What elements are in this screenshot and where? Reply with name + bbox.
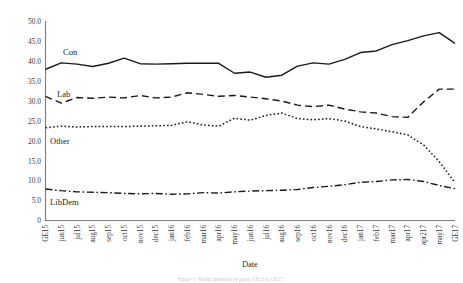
y-tick-label: 25.0 <box>28 117 41 126</box>
x-tick-label: sep15 <box>105 225 113 242</box>
x-tick-label: jan17 <box>357 225 365 242</box>
series-label-libdem: LibDem <box>50 197 79 207</box>
x-tick-label: GE17 <box>452 225 460 242</box>
x-tick-label: feb17 <box>373 225 381 242</box>
x-axis-title: Date <box>242 260 258 269</box>
x-tick-label: sep16 <box>294 225 302 242</box>
series-line-libdem <box>46 180 456 195</box>
x-tick-label: jun16 <box>247 225 255 243</box>
series-line-other <box>46 113 456 183</box>
x-tick-label: mar16 <box>200 225 208 244</box>
series-line-lab <box>46 89 456 117</box>
y-tick-label: 35.0 <box>28 77 41 86</box>
x-tick-label: jul16 <box>263 225 271 241</box>
x-tick-label: may17 <box>436 225 444 245</box>
x-tick-label: may16 <box>231 225 239 245</box>
y-tick-label: 50.0 <box>28 17 41 26</box>
x-tick-label: apr17 <box>404 225 412 242</box>
series-line-con <box>46 33 456 78</box>
y-tick-label: 40.0 <box>28 57 41 66</box>
y-tick-label: 20.0 <box>28 137 41 146</box>
y-tick-label: 0 <box>37 216 41 225</box>
series-label-other: Other <box>50 136 70 146</box>
x-tick-label: nov16 <box>326 225 334 243</box>
x-tick-label: GE15 <box>42 225 50 242</box>
x-tick-label: oct16 <box>310 225 318 241</box>
x-tick-label: oct15 <box>121 225 129 241</box>
y-tick-label: 5.0 <box>32 196 42 205</box>
y-tick-label: 15.0 <box>28 157 41 166</box>
x-tick-label: dec15 <box>152 225 160 243</box>
y-tick-label: 45.0 <box>28 37 41 46</box>
x-tick-label: mar17 <box>389 225 397 244</box>
x-tick-label: jul15 <box>74 225 82 241</box>
line-chart: 05.010.015.020.025.030.035.040.045.050.0… <box>0 0 463 283</box>
x-tick-label: apr16 <box>215 225 223 242</box>
axis-lines <box>46 21 456 221</box>
x-tick-label: apr217 <box>420 225 428 245</box>
y-tick-label: 10.0 <box>28 176 41 185</box>
series-lines <box>46 33 456 195</box>
series-label-con: Con <box>63 47 78 57</box>
figure-caption: Figure 1: Voting intention by party, GE1… <box>178 276 284 282</box>
x-tick-label: jun15 <box>58 225 66 243</box>
x-tick-label: aug15 <box>89 225 97 243</box>
x-tick-label: aug16 <box>278 225 286 243</box>
x-tick-label: nov15 <box>137 225 145 243</box>
y-axis-ticks: 05.010.015.020.025.030.035.040.045.050.0 <box>28 17 41 225</box>
x-tick-label: feb16 <box>184 225 192 242</box>
series-label-lab: Lab <box>57 89 70 99</box>
x-tick-label: dec16 <box>341 225 349 243</box>
x-axis-ticks: GE15jun15jul15aug15sep15oct15nov15dec15j… <box>42 225 460 245</box>
chart-page: 05.010.015.020.025.030.035.040.045.050.0… <box>0 0 463 283</box>
x-tick-label: jan16 <box>168 225 176 242</box>
y-tick-label: 30.0 <box>28 97 41 106</box>
